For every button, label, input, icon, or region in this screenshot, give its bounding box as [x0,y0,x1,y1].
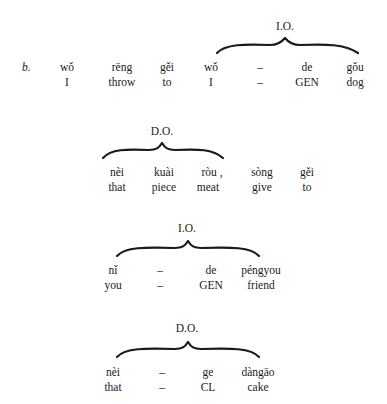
pinyin-word: wǒ [204,61,218,73]
pinyin-word: kuài [154,166,174,178]
pinyin-word: gěi [300,166,314,178]
gloss-word: I [209,76,213,88]
pinyin-word: de [302,61,313,73]
gloss-word: to [303,181,312,193]
bracket-label-do: D.O. [151,125,173,137]
pinyin-word: wǒ [60,61,74,73]
gloss-word: piece [152,181,176,193]
pinyin-word: – [157,264,163,276]
pinyin-word: rēng [112,61,132,73]
brace-icon [101,143,225,161]
brace-icon [115,241,261,259]
pinyin-word: nèi [110,166,124,178]
gloss-word: that [104,381,121,393]
gloss-word: I [65,76,69,88]
brace-icon [215,38,360,56]
pinyin-word: nèi [106,366,120,378]
gloss-word: – [157,279,163,291]
bracket-label-io: I.O. [276,20,294,32]
pinyin-word: péngyou [241,264,281,276]
pinyin-word: gěi [160,61,174,73]
gloss-word: throw [109,76,136,88]
gloss-word: cake [247,381,268,393]
gloss-word: dog [346,76,363,88]
gloss-word: – [159,381,165,393]
pinyin-word: ròu , [201,166,222,178]
gloss-word: meat [197,181,219,193]
gloss-word: give [252,181,272,193]
pinyin-word: nǐ [109,264,118,276]
gloss-word: – [257,76,263,88]
gloss-word: CL [201,381,216,393]
pinyin-word: de [206,264,217,276]
gloss-word: to [163,76,172,88]
gloss-word: GEN [295,76,319,88]
bracket-label-io: I.O. [178,222,196,234]
gloss-word: GEN [199,279,223,291]
brace-icon [115,342,261,360]
pinyin-word: – [257,61,263,73]
gloss-word: that [108,181,125,193]
pinyin-word: dàngāo [241,366,274,378]
bracket-label-do: D.O. [176,322,198,334]
pinyin-word: sòng [251,166,273,178]
example-label: b. [22,61,31,73]
gloss-word: friend [247,279,274,291]
pinyin-word: – [159,366,165,378]
gloss-word: you [104,279,121,291]
pinyin-word: ge [203,366,214,378]
pinyin-word: gǒu [346,61,363,73]
